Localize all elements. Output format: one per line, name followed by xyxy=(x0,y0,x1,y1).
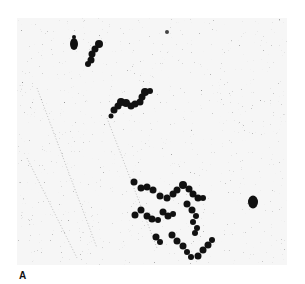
speckle-texture xyxy=(17,18,287,265)
panel-label: A xyxy=(19,271,26,281)
micrograph-image xyxy=(17,18,287,265)
small-speck xyxy=(165,30,169,34)
micrograph-canvas xyxy=(17,18,287,265)
isolated-particle xyxy=(248,196,258,209)
